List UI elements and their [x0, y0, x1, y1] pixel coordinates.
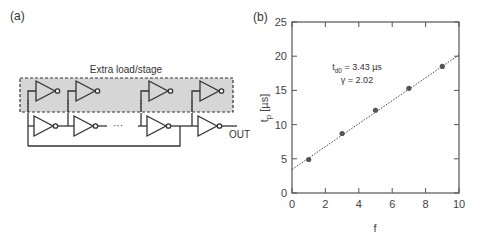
data-point [306, 157, 311, 162]
x-tick-label: 10 [453, 198, 465, 210]
svg-text:γ = 2.02: γ = 2.02 [341, 75, 373, 85]
svg-text:td0 = 3.43 µs: td0 = 3.43 µs [332, 62, 382, 74]
x-tick-label: 0 [289, 198, 295, 210]
y-tick-label: 0 [281, 187, 287, 199]
y-tick-label: 25 [275, 16, 287, 28]
x-tick-label: 6 [389, 198, 395, 210]
x-tick-label: 8 [423, 198, 429, 210]
data-point [373, 108, 378, 113]
delay-vs-fanout-chart: 02468100510152025 f tp [µs] td0 = 3.43 µ… [0, 0, 482, 240]
y-tick-label: 20 [275, 50, 287, 62]
plot-frame [292, 22, 459, 193]
y-tick-label: 15 [275, 84, 287, 96]
fit-annotation: td0 = 3.43 µs γ = 2.02 [332, 62, 382, 85]
y-axis-label: tp [µs] [258, 94, 273, 123]
x-axis-label: f [373, 222, 377, 234]
x-tick-label: 4 [356, 198, 362, 210]
y-tick-label: 5 [281, 153, 287, 165]
data-point [340, 131, 345, 136]
svg-text:tp [µs]: tp [µs] [258, 94, 273, 123]
x-tick-label: 2 [322, 198, 328, 210]
y-tick-label: 10 [275, 119, 287, 131]
data-point [440, 64, 445, 69]
data-point [406, 86, 411, 91]
